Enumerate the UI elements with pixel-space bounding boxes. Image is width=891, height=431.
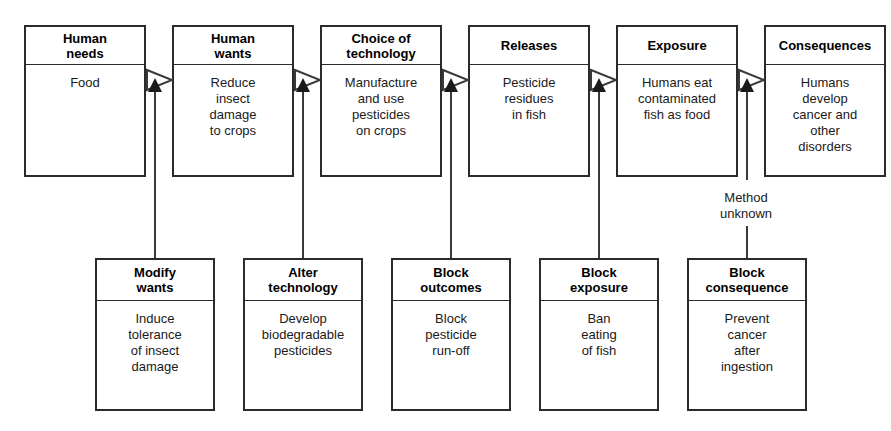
intervention-node-header: Block consequence (689, 260, 805, 301)
intervention-arrow-icon (444, 78, 458, 92)
chain-node-choice-of-technology[interactable]: Choice of technology Manufacture and use… (320, 25, 442, 177)
intervention-connector-line (154, 92, 156, 258)
chain-node-header: Releases (470, 27, 588, 65)
chain-node-consequences[interactable]: Consequences Humans develop cancer and o… (764, 25, 886, 177)
intervention-node-body: Develop biodegradable pesticides (245, 301, 361, 409)
intervention-node-block-exposure[interactable]: Block exposure Ban eating of fish (539, 258, 659, 411)
chain-node-human-needs[interactable]: Human needs Food (24, 25, 146, 177)
chain-node-header: Human needs (26, 27, 144, 65)
chain-node-body: Humans eat contaminated fish as food (618, 65, 736, 175)
chain-node-body: Pesticide residues in fish (470, 65, 588, 175)
intervention-node-header: Block outcomes (393, 260, 509, 301)
intervention-node-block-consequence[interactable]: Block consequence Prevent cancer after i… (687, 258, 807, 411)
intervention-node-modify-wants[interactable]: Modify wants Induce tolerance of insect … (95, 258, 215, 411)
intervention-connector-line (450, 92, 452, 258)
chain-node-body: Reduce insect damage to crops (174, 65, 292, 175)
chain-node-body: Manufacture and use pesticides on crops (322, 65, 440, 175)
chain-node-header: Exposure (618, 27, 736, 65)
intervention-node-body: Prevent cancer after ingestion (689, 301, 805, 409)
diagram-canvas: Human needs Food Human wants Reduce inse… (0, 0, 891, 431)
chain-node-header: Consequences (766, 27, 884, 65)
chain-node-releases[interactable]: Releases Pesticide residues in fish (468, 25, 590, 177)
intervention-connector-line (598, 92, 600, 258)
chain-node-exposure[interactable]: Exposure Humans eat contaminated fish as… (616, 25, 738, 177)
chain-node-header: Choice of technology (322, 27, 440, 65)
intervention-node-body: Ban eating of fish (541, 301, 657, 409)
intervention-node-body: Block pesticide run-off (393, 301, 509, 409)
edge-label-method-unknown: Method unknown (694, 190, 798, 222)
intervention-connector-line (746, 226, 748, 258)
intervention-connector-line (302, 92, 304, 258)
chain-node-body: Food (26, 65, 144, 175)
intervention-node-header: Modify wants (97, 260, 213, 301)
intervention-node-alter-technology[interactable]: Alter technology Develop biodegradable p… (243, 258, 363, 411)
chain-node-human-wants[interactable]: Human wants Reduce insect damage to crop… (172, 25, 294, 177)
intervention-node-body: Induce tolerance of insect damage (97, 301, 213, 409)
intervention-arrow-icon (148, 78, 162, 92)
chain-node-header: Human wants (174, 27, 292, 65)
intervention-connector-line (746, 92, 748, 180)
intervention-node-header: Alter technology (245, 260, 361, 301)
intervention-arrow-icon (296, 78, 310, 92)
chain-node-body: Humans develop cancer and other disorder… (766, 65, 884, 175)
intervention-node-block-outcomes[interactable]: Block outcomes Block pesticide run-off (391, 258, 511, 411)
intervention-node-header: Block exposure (541, 260, 657, 301)
intervention-arrow-icon (592, 78, 606, 92)
intervention-arrow-icon (740, 78, 754, 92)
